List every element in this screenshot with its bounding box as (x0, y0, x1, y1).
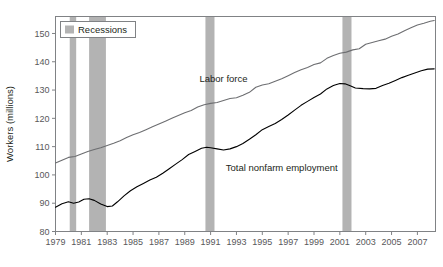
employment-labor-force-chart: 8090100110120130140150 19791981198319851… (0, 0, 443, 267)
x-tick-label: 1989 (175, 237, 195, 247)
y-tick-label: 100 (34, 170, 49, 180)
legend-swatch-recessions (65, 26, 74, 34)
x-tick-label: 1993 (226, 237, 246, 247)
x-tick-label: 1997 (278, 237, 298, 247)
x-tick-label: 2007 (407, 237, 427, 247)
x-tick-label: 2003 (356, 237, 376, 247)
x-tick-label: 1985 (123, 237, 143, 247)
y-tick-label: 140 (34, 57, 49, 67)
y-tick-label: 90 (39, 198, 49, 208)
recession-band (342, 17, 351, 232)
x-tick-label: 1995 (252, 237, 272, 247)
recession-band (70, 17, 76, 232)
x-tick-label: 2005 (382, 237, 402, 247)
series-line (56, 69, 435, 207)
x-tick-label: 1979 (45, 237, 65, 247)
recession-band (205, 17, 214, 232)
x-tick-label: 1983 (97, 237, 117, 247)
chart-figure: 8090100110120130140150 19791981198319851… (0, 0, 443, 267)
x-tick-label: 1987 (149, 237, 169, 247)
y-tick-label: 120 (34, 114, 49, 124)
x-axis-ticks: 1979198119831985198719891991199319951997… (45, 232, 427, 247)
y-axis-ticks: 8090100110120130140150 (34, 29, 55, 237)
y-tick-label: 150 (34, 29, 49, 39)
y-axis-title: Workers (millions) (4, 86, 15, 162)
data-series (56, 20, 435, 207)
y-tick-label: 80 (39, 227, 49, 237)
legend: Recessions (61, 22, 136, 38)
series-annotations: Labor forceTotal nonfarm employment (199, 73, 338, 173)
x-tick-label: 1991 (201, 237, 221, 247)
series-annotation-label: Labor force (199, 73, 247, 84)
recession-bands (70, 17, 352, 232)
x-tick-label: 1999 (304, 237, 324, 247)
x-tick-label: 1981 (71, 237, 91, 247)
series-annotation-label: Total nonfarm employment (226, 162, 338, 173)
x-tick-label: 2001 (330, 237, 350, 247)
y-tick-label: 130 (34, 85, 49, 95)
legend-label-recessions: Recessions (78, 24, 127, 35)
plot-frame (56, 17, 436, 232)
y-tick-label: 110 (35, 142, 49, 152)
